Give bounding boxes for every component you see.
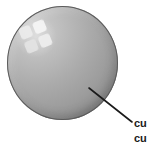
sphere-callout-diagram: cu cu — [0, 0, 154, 146]
callout-label: cu cu — [134, 116, 154, 146]
gray-sphere — [7, 6, 118, 120]
callout-label-line-1: cu — [134, 116, 154, 131]
callout-label-line-2: cu — [134, 131, 154, 146]
